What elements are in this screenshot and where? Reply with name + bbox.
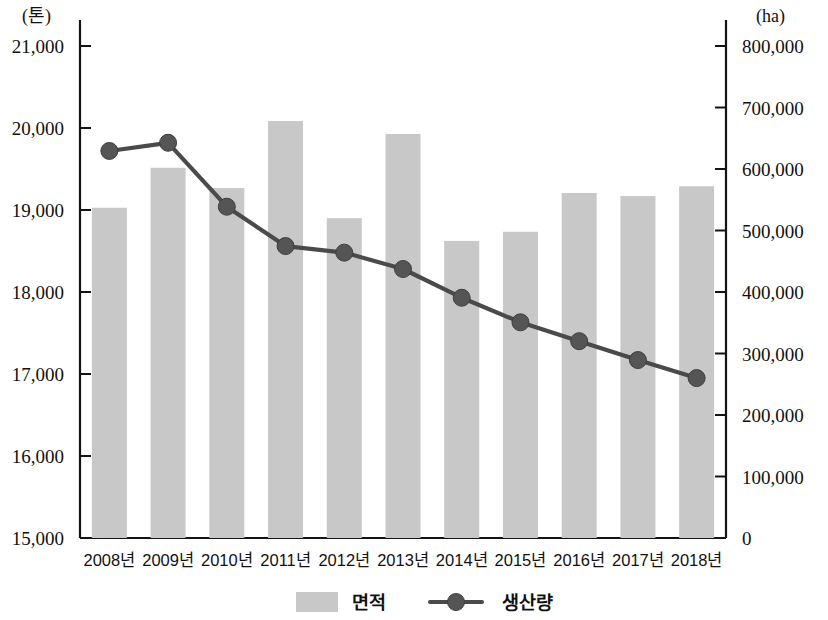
left-axis-unit-label: (톤) [22, 6, 51, 27]
x-tick-label: 2012년 [318, 551, 370, 569]
production-marker-2014년 [453, 289, 470, 306]
bar-area-2009년 [151, 168, 186, 538]
x-tick-label: 2010년 [201, 551, 253, 569]
x-tick-label: 2016년 [553, 551, 605, 569]
production-marker-2009년 [160, 134, 177, 151]
bar-area-2016년 [562, 193, 597, 538]
right-tick-label: 300,000 [742, 344, 804, 365]
legend-label-area: 면적 [352, 592, 386, 613]
production-marker-2016년 [571, 333, 588, 350]
left-tick-label: 17,000 [12, 364, 64, 385]
right-tick-label: 200,000 [742, 405, 804, 426]
bar-area-2008년 [92, 208, 127, 538]
left-tick-label: 15,000 [12, 528, 64, 549]
right-tick-label: 700,000 [742, 98, 804, 119]
production-marker-2010년 [218, 198, 235, 215]
legend-marker-production [448, 594, 465, 611]
x-tick-label: 2013년 [377, 551, 429, 569]
right-tick-label: 100,000 [742, 467, 804, 488]
x-tick-label: 2011년 [260, 551, 310, 569]
left-tick-label: 19,000 [12, 200, 64, 221]
legend-label-production: 생산량 [502, 592, 553, 613]
production-marker-2013년 [395, 261, 412, 278]
bar-area-2013년 [386, 134, 421, 538]
production-marker-2008년 [101, 142, 118, 159]
chart-legend: 면적 생산량 [296, 592, 553, 613]
bar-area-2018년 [679, 186, 714, 538]
production-marker-2018년 [688, 370, 705, 387]
bar-area-2015년 [503, 232, 538, 538]
left-tick-label: 16,000 [12, 446, 64, 467]
production-marker-2017년 [629, 352, 646, 369]
x-tick-label: 2014년 [436, 551, 488, 569]
left-tick-label: 21,000 [12, 36, 64, 57]
right-tick-label: 500,000 [742, 221, 804, 242]
legend-swatch-area [296, 592, 338, 612]
x-tick-label: 2017년 [612, 551, 664, 569]
right-tick-label: 600,000 [742, 159, 804, 180]
bar-series-area [92, 121, 714, 538]
chart-canvas: (톤) (ha) 21,00020,00019,00018,00017,0001… [0, 0, 828, 620]
chart-container: (톤) (ha) 21,00020,00019,00018,00017,0001… [0, 0, 828, 620]
right-tick-label: 0 [742, 528, 752, 549]
left-tick-label: 18,000 [12, 282, 64, 303]
bar-area-2014년 [444, 241, 479, 538]
x-tick-label: 2008년 [84, 551, 136, 569]
right-tick-label: 800,000 [742, 36, 804, 57]
bar-area-2010년 [209, 188, 244, 538]
right-tick-label: 400,000 [742, 282, 804, 303]
bar-area-2011년 [268, 121, 303, 538]
bar-area-2012년 [327, 218, 362, 538]
x-tick-label: 2009년 [142, 551, 194, 569]
x-tick-label: 2015년 [495, 551, 547, 569]
production-marker-2015년 [512, 314, 529, 331]
x-axis-category-labels: 2008년2009년2010년2011년2012년2013년2014년2015년… [84, 551, 723, 569]
right-axis-ticks: 800,000700,000600,000500,000400,000300,0… [715, 36, 804, 549]
x-tick-label: 2018년 [671, 551, 723, 569]
production-marker-2011년 [277, 238, 294, 255]
production-marker-2012년 [336, 244, 353, 261]
left-tick-label: 20,000 [12, 118, 64, 139]
right-axis-unit-label: (ha) [756, 6, 785, 27]
